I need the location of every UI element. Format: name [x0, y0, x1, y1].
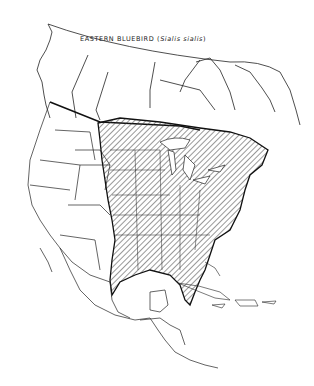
- scientific-name-close: ): [203, 35, 206, 43]
- map-title: EASTERN BLUEBIRD (Sialis sialis): [80, 35, 206, 43]
- range-map: [0, 0, 314, 386]
- western-us-outline: [28, 102, 110, 282]
- scientific-name: Sialis sialis: [160, 35, 203, 43]
- common-name: EASTERN BLUEBIRD: [80, 35, 154, 43]
